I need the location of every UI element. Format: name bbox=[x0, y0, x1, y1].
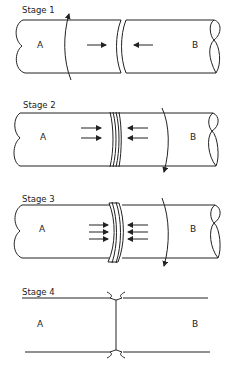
stage-1-label: Stage 1 bbox=[22, 5, 55, 15]
part-a-label: A bbox=[40, 132, 47, 142]
joint-line-1 bbox=[110, 112, 113, 167]
part-a-label: A bbox=[39, 224, 46, 234]
flash-top bbox=[107, 292, 125, 300]
joint-face-b bbox=[122, 20, 127, 73]
collar-outer-a bbox=[108, 203, 114, 262]
stage-1: Stage 1 A B bbox=[16, 5, 220, 80]
pipe-b-break-end-inner bbox=[210, 20, 219, 73]
stage-3-label: Stage 3 bbox=[22, 194, 55, 204]
flash-bottom bbox=[107, 350, 125, 358]
pipe-a-break-end bbox=[14, 113, 20, 166]
part-b-label: B bbox=[190, 224, 196, 234]
rotation-arrow-down-icon bbox=[162, 108, 168, 172]
pipe-b-break-end-inner bbox=[211, 205, 220, 258]
part-a-label: A bbox=[37, 319, 44, 329]
pipe-b-break-end bbox=[210, 20, 220, 73]
stage-4-label: Stage 4 bbox=[22, 287, 55, 297]
friction-welding-diagram: Stage 1 A B Stage 2 bbox=[0, 0, 227, 369]
stage-4: Stage 4 A B bbox=[22, 287, 210, 358]
stage-3: Stage 3 A B bbox=[14, 194, 220, 266]
pipe-a-break-end bbox=[14, 205, 22, 258]
part-b-label: B bbox=[190, 132, 196, 142]
part-b-label: B bbox=[192, 40, 198, 50]
rotation-arrow-down-icon bbox=[162, 198, 168, 266]
part-b-label: B bbox=[192, 319, 198, 329]
joint-face-a bbox=[117, 20, 122, 73]
pipe-a-break-end bbox=[16, 20, 25, 73]
stage-2-label: Stage 2 bbox=[23, 100, 56, 110]
part-a-label: A bbox=[37, 40, 44, 50]
rotation-arrow-up-icon bbox=[65, 14, 71, 80]
stage-2: Stage 2 A B bbox=[14, 100, 218, 172]
pipe-b-break-end-inner bbox=[209, 113, 218, 166]
